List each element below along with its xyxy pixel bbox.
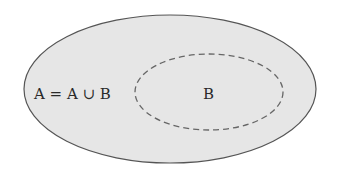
venn-diagram: A = A ∪ B B [0,0,340,179]
set-b-label: B [203,85,214,103]
set-a-label: A = A ∪ B [33,85,111,103]
